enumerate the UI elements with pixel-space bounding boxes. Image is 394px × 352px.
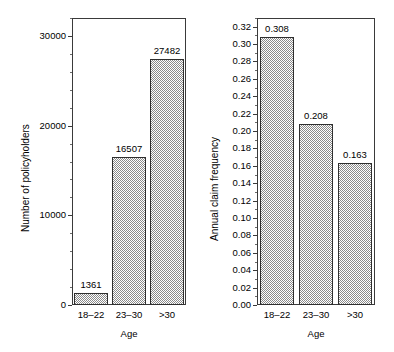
y-axis-tick-label: 0.02	[225, 283, 251, 293]
y-axis-tick-minor	[70, 72, 72, 73]
y-axis-tick-major	[68, 36, 72, 37]
y-axis-tick-major	[253, 253, 257, 254]
y-axis-tick-major	[253, 114, 257, 115]
y-axis-tick-minor	[255, 296, 257, 297]
y-axis-tick-minor	[255, 192, 257, 193]
y-axis-tick-major	[253, 270, 257, 271]
y-axis-tick-label: 20000	[26, 121, 66, 131]
y-axis-tick-label: 0.30	[225, 39, 251, 49]
bar	[338, 163, 372, 305]
y-axis-tick-major	[68, 305, 72, 306]
y-axis-tick-minor	[255, 279, 257, 280]
y-axis-tick-label: 0.14	[225, 178, 251, 188]
bar	[260, 37, 294, 305]
bar-value-label: 27482	[136, 46, 198, 56]
y-axis-tick-minor	[70, 179, 72, 180]
y-axis-tick-minor	[70, 90, 72, 91]
y-axis-title-policyholders: Number of policyholders	[20, 124, 31, 232]
bar-value-label: 0.163	[324, 150, 386, 160]
y-axis-tick-minor	[70, 18, 72, 19]
y-axis-tick-minor	[255, 175, 257, 176]
y-axis-tick-label: 0.06	[225, 248, 251, 258]
y-axis-tick-minor	[70, 269, 72, 270]
y-axis-tick-major	[68, 126, 72, 127]
y-axis-tick-minor	[255, 157, 257, 158]
y-axis-tick-label: 0.10	[225, 213, 251, 223]
y-axis-tick-minor	[255, 227, 257, 228]
y-axis-tick-minor	[70, 162, 72, 163]
y-axis-tick-major	[253, 148, 257, 149]
y-axis-tick-label: 0.24	[225, 91, 251, 101]
y-axis-tick-minor	[255, 18, 257, 19]
bar	[150, 59, 184, 305]
y-axis-tick-label: 0.26	[225, 74, 251, 84]
y-axis-tick-major	[253, 131, 257, 132]
x-axis-tick-label: >30	[331, 310, 379, 320]
y-axis-tick-minor	[255, 244, 257, 245]
y-axis-tick-label: 0.04	[225, 265, 251, 275]
y-axis-tick-minor	[255, 105, 257, 106]
y-axis-tick-label: 30000	[26, 31, 66, 41]
y-axis-tick-minor	[255, 140, 257, 141]
y-axis-tick-label: 0.08	[225, 230, 251, 240]
x-axis-title-claim-frequency: Age	[257, 329, 375, 339]
y-axis-tick-label: 0.20	[225, 126, 251, 136]
y-axis-tick-minor	[255, 70, 257, 71]
y-axis-tick-minor	[70, 233, 72, 234]
y-axis-tick-major	[253, 235, 257, 236]
y-axis-tick-minor	[255, 209, 257, 210]
x-axis-title-policyholders: Age	[72, 329, 186, 339]
y-axis-tick-label: 0.12	[225, 196, 251, 206]
y-axis-tick-minor	[70, 197, 72, 198]
y-axis-tick-label: 0.16	[225, 161, 251, 171]
y-axis-tick-minor	[70, 144, 72, 145]
bar	[112, 157, 146, 305]
y-axis-tick-minor	[70, 108, 72, 109]
y-axis-tick-major	[253, 44, 257, 45]
y-axis-tick-minor	[70, 251, 72, 252]
y-axis-tick-major	[253, 79, 257, 80]
y-axis-tick-label: 0	[26, 300, 66, 310]
y-axis-tick-major	[253, 61, 257, 62]
bar-value-label: 0.208	[285, 111, 347, 121]
y-axis-title-claim-frequency: Annual claim frequency	[209, 137, 220, 241]
y-axis-tick-minor	[255, 35, 257, 36]
y-axis-tick-minor	[255, 53, 257, 54]
y-axis-tick-major	[253, 166, 257, 167]
bar	[74, 293, 108, 305]
y-axis-tick-label: 0.28	[225, 56, 251, 66]
chart-panel-claim-frequency: 0.000.020.040.060.080.100.120.140.160.18…	[197, 0, 394, 352]
y-axis-tick-major	[253, 288, 257, 289]
y-axis-tick-major	[253, 96, 257, 97]
figure-canvas: 0100002000030000 13611650727482 18–2223–…	[0, 0, 394, 352]
y-axis-tick-label: 0.22	[225, 109, 251, 119]
y-axis-tick-major	[68, 215, 72, 216]
y-axis-tick-minor	[255, 88, 257, 89]
y-axis-tick-label: 0.18	[225, 143, 251, 153]
y-axis-tick-minor	[70, 54, 72, 55]
y-axis-tick-label: 0.00	[225, 300, 251, 310]
y-axis-tick-minor	[255, 262, 257, 263]
x-axis-tick-label: >30	[143, 310, 191, 320]
y-axis-tick-minor	[255, 122, 257, 123]
y-axis-tick-label: 10000	[26, 210, 66, 220]
y-axis-tick-major	[253, 305, 257, 306]
bar-value-label: 0.308	[246, 24, 308, 34]
chart-panel-policyholders: 0100002000030000 13611650727482 18–2223–…	[0, 0, 197, 352]
y-axis-tick-major	[253, 183, 257, 184]
y-axis-tick-major	[253, 218, 257, 219]
y-axis-tick-major	[253, 201, 257, 202]
